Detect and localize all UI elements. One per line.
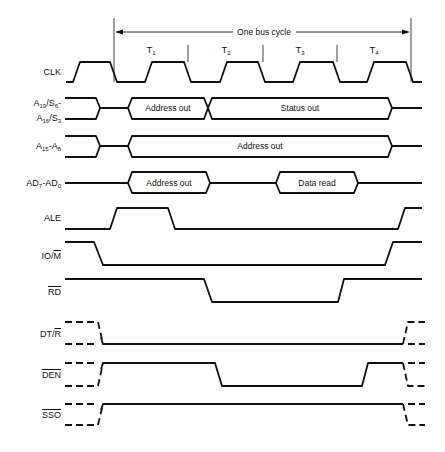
iom-waveform [65,242,422,265]
ale-waveform [65,208,422,229]
state-index: 2 [227,50,230,56]
state-index: 3 [301,50,304,56]
label-den-text: DEN [42,370,61,380]
ad7-segment-data: Data read [298,178,335,188]
den-waveform [65,363,425,386]
arrow-right-icon [402,30,410,35]
label-den: DEN [42,370,61,380]
ad7-segment-address: Address out [146,178,191,188]
label-a19-line1: A19/S6- [33,98,61,108]
state-t3: T3 [295,44,304,56]
label-rd: RD [48,287,61,297]
a19-bus-waveform [65,98,422,119]
label-a15: A15-A8 [36,141,61,154]
label-a19: A19/S6- A16/S3 [33,97,61,127]
label-rd-text: RD [48,287,61,297]
a19-segment-address: Address out [145,103,190,113]
sso-waveform [65,404,425,425]
arrow-left-icon [115,30,123,35]
label-ad7: AD7-AD0 [26,178,61,191]
state-t4: T4 [369,44,378,56]
ad7-bus-waveform [65,172,422,193]
clk-waveform [66,62,422,82]
state-t2: T2 [221,44,230,56]
dtr-waveform [65,322,425,344]
timing-diagram [0,0,445,452]
label-clk: CLK [43,67,61,77]
a15-segment-address: Address out [237,141,282,151]
a19-segment-status: Status out [281,103,319,113]
label-sso: SSO [42,410,61,420]
bus-cycle-label: One bus cycle [234,27,294,37]
state-index: 4 [375,50,378,56]
label-a19-line2: A16/S3 [36,113,61,123]
state-t1: T1 [146,44,155,56]
rd-waveform [65,279,422,302]
label-ale: ALE [44,213,61,223]
label-iom: IO/M [41,251,61,261]
state-index: 1 [152,50,155,56]
label-sso-text: SSO [42,410,61,420]
label-dtr: DT/R [40,329,61,339]
